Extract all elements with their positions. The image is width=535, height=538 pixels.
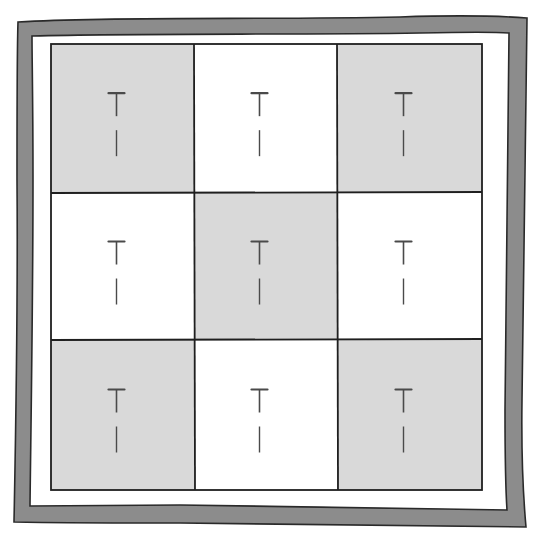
grid-cell-1-0 xyxy=(51,193,194,340)
grid-cells xyxy=(51,44,482,490)
grid-cell-2-0 xyxy=(51,340,194,490)
grid-cell-0-1 xyxy=(194,44,337,193)
grid-cell-1-2 xyxy=(337,193,482,340)
grid-line-horizontal xyxy=(51,192,482,193)
grid-line-vertical xyxy=(194,44,195,490)
grid-cell-2-1 xyxy=(194,340,337,490)
grid-cell-0-0 xyxy=(51,44,194,193)
grid-line-vertical xyxy=(337,44,338,490)
grid-cell-1-1 xyxy=(194,193,337,340)
checkerboard-illustration xyxy=(0,0,535,538)
grid-line-horizontal xyxy=(51,339,482,340)
grid-cell-2-2 xyxy=(337,340,482,490)
grid-cell-0-2 xyxy=(337,44,482,193)
